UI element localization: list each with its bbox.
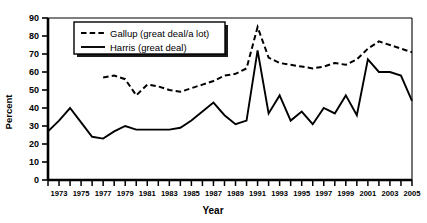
line-chart: 0102030405060708090 19731975197719791981…: [0, 0, 427, 223]
x-tick-label: 1995: [293, 189, 311, 198]
x-tick-label: 1983: [161, 189, 178, 198]
y-tick-label: 90: [29, 13, 39, 23]
x-tick-label: 1985: [183, 189, 201, 198]
y-tick-label: 0: [34, 175, 39, 185]
x-tick-label: 1989: [227, 189, 244, 198]
y-tick-label: 10: [29, 157, 39, 167]
y-axis-label: Percent: [3, 94, 14, 130]
x-tick-label: 1979: [117, 189, 134, 198]
y-tick-label: 80: [29, 31, 39, 41]
x-tick-label: 1981: [139, 189, 157, 198]
legend-label-gallup: Gallup (great deal/a lot): [110, 28, 209, 39]
y-tick-label: 30: [29, 121, 39, 131]
y-tick-label: 70: [29, 49, 39, 59]
x-tick-label: 2005: [404, 189, 422, 198]
x-tick-label: 1977: [95, 189, 112, 198]
y-tick-label: 50: [29, 85, 39, 95]
y-tick-label: 40: [29, 103, 39, 113]
x-tick-label: 1993: [271, 189, 288, 198]
x-tick-label: 2003: [381, 189, 398, 198]
chart-legend: Gallup (great deal/a lot)Harris (great d…: [74, 22, 228, 57]
x-axis-label: Year: [202, 205, 223, 216]
x-tick-label: 1973: [51, 189, 68, 198]
y-tick-label: 20: [29, 139, 39, 149]
legend-label-harris: Harris (great deal): [110, 42, 187, 53]
x-tick-label: 1987: [205, 189, 222, 198]
x-tick-label: 1975: [73, 189, 91, 198]
x-tick-label: 2001: [359, 189, 377, 198]
x-tick-label: 1999: [337, 189, 354, 198]
y-tick-label: 60: [29, 67, 39, 77]
chart-figure: 0102030405060708090 19731975197719791981…: [0, 0, 427, 223]
x-tick-label: 1997: [315, 189, 332, 198]
x-tick-label: 1991: [249, 189, 267, 198]
